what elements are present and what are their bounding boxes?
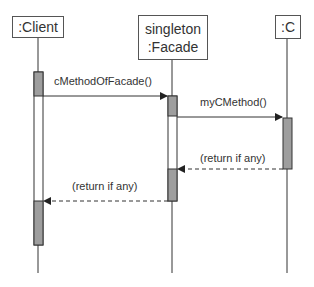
participant-c: :C [275,15,301,39]
message-label-return-c: (return if any) [200,152,265,164]
c-activation [283,118,292,169]
participant-facade-label-line1: singleton [145,20,201,38]
participant-c-label: :C [281,18,295,36]
participant-client: :Client [12,16,64,38]
participant-client-label: :Client [18,18,58,36]
participant-facade: singleton :Facade [138,15,208,60]
message-label-cmethodoffacade: cMethodOfFacade() [54,75,152,87]
facade-activation [168,96,177,201]
client-activation [34,72,43,245]
message-label-return-facade: (return if any) [72,180,137,192]
message-label-mycmethod: myCMethod() [200,96,267,108]
participant-facade-label-line2: :Facade [148,38,199,56]
